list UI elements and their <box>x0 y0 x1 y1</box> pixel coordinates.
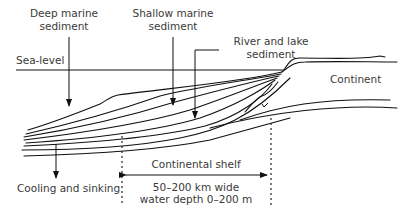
river-lake-label-line2: sediment <box>247 48 296 60</box>
diagram-canvas: Deep marine sediment Shallow marine sedi… <box>0 0 418 215</box>
sediment-layer-8 <box>24 118 290 156</box>
river-lake-marker <box>262 103 268 107</box>
sediment-layer-5 <box>26 80 275 143</box>
shelf-title: Continental shelf <box>151 158 241 170</box>
sediment-diagram: Deep marine sediment Shallow marine sedi… <box>0 0 418 215</box>
shelf-depth-text: water depth 0–200 m <box>140 193 253 205</box>
shallow-marine-label-line2: sediment <box>149 20 198 32</box>
continent-surface-lower <box>282 62 397 72</box>
sediment-layer-2 <box>26 74 281 134</box>
river-lake-label-line1: River and lake <box>233 35 308 47</box>
deep-marine-label-line2: sediment <box>40 20 89 32</box>
cooling-label: Cooling and sinking <box>17 182 120 194</box>
shelf-width-text: 50–200 km wide <box>153 181 239 193</box>
sediment-layer-3 <box>24 76 279 137</box>
sea-level-label: Sea-level <box>16 54 64 66</box>
river-lake-wedge-outline <box>245 82 278 112</box>
continent-label: Continent <box>330 73 381 85</box>
sediment-layer-7 <box>22 78 290 150</box>
deep-marine-label-line1: Deep marine <box>30 7 98 19</box>
basement-layer-2 <box>210 107 397 128</box>
shallow-marine-label-line1: Shallow marine <box>133 7 214 19</box>
